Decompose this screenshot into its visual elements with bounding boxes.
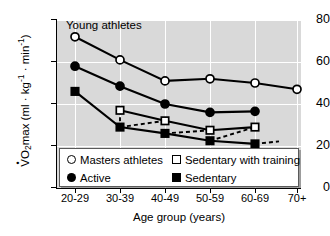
circle-filled-marker-50-59 — [206, 108, 214, 116]
series-line — [165, 130, 210, 133]
legend-label-sedentary-with-training: Sedentary with training — [185, 154, 300, 166]
circle-filled-marker-60-69 — [251, 107, 259, 115]
legend-label-masters-athletes: Masters athletes — [80, 154, 163, 166]
series-markers — [71, 33, 301, 148]
square-open-marker-icon — [172, 155, 181, 164]
square-open-marker-40-49 — [161, 117, 168, 124]
legend-row-1: Masters athletes Sedentary with training — [60, 150, 298, 169]
series-layer — [0, 0, 330, 236]
circle-filled-marker-40-49 — [161, 100, 169, 108]
square-open-marker-60-69 — [251, 123, 258, 130]
legend-label-sedentary: Sedentary — [185, 172, 237, 184]
square-open-marker-30-39 — [116, 107, 123, 114]
legend-row-2: Active Sedentary — [60, 168, 298, 187]
legend-item-sedentary[interactable]: Sedentary — [172, 172, 237, 184]
circle-filled-marker-20-29 — [71, 62, 79, 70]
legend-box: Masters athletes Sedentary with training… — [59, 148, 299, 187]
vo2max-age-chart: 80 60 40 20 0 20-29 30-39 40-49 50-59 60… — [0, 0, 330, 236]
circle-open-marker-70+ — [293, 85, 301, 93]
square-filled-marker-40-49 — [161, 130, 168, 137]
legend-label-active: Active — [80, 172, 111, 184]
legend-item-masters-athletes[interactable]: Masters athletes — [67, 154, 163, 166]
series-line — [120, 121, 165, 127]
circle-open-marker-50-59 — [206, 75, 214, 83]
circle-open-marker-20-29 — [71, 33, 79, 41]
circle-open-marker-60-69 — [251, 79, 259, 87]
series-lines — [75, 37, 297, 144]
circle-open-marker-icon — [67, 155, 76, 164]
square-filled-marker-50-59 — [206, 137, 213, 144]
legend-item-active[interactable]: Active — [67, 172, 111, 184]
square-open-marker-50-59 — [206, 127, 213, 134]
square-filled-marker-20-29 — [71, 88, 78, 95]
circle-open-marker-40-49 — [161, 77, 169, 85]
series-line — [120, 110, 255, 130]
circle-filled-marker-30-39 — [116, 82, 124, 90]
circle-open-marker-30-39 — [116, 56, 124, 64]
circle-filled-marker-icon — [67, 173, 76, 182]
square-filled-marker-60-69 — [251, 140, 258, 147]
legend-item-sedentary-with-training[interactable]: Sedentary with training — [172, 154, 300, 166]
square-filled-marker-icon — [172, 173, 181, 182]
square-filled-marker-30-39 — [116, 123, 123, 130]
